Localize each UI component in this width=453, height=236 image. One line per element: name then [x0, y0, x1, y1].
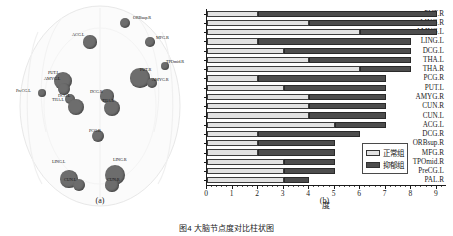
y-tick [204, 125, 207, 126]
x-minor-tick [405, 186, 406, 187]
table-row [207, 75, 386, 81]
bar-segment-depressed [284, 48, 412, 54]
y-tick [204, 153, 207, 154]
y-tick [204, 51, 207, 52]
figure-container: ORBsup.RACG.LMFG.RTPOmid.RPUT.RAMYG.RPUT… [0, 0, 453, 236]
bar-segment-normal [207, 20, 309, 26]
bar-segment-depressed [258, 149, 335, 155]
x-minor-tick [288, 186, 289, 187]
y-tick [204, 97, 207, 98]
x-minor-tick [349, 186, 350, 187]
bar-segment-normal [207, 85, 284, 91]
bar-segment-normal [207, 131, 258, 137]
legend-label-depressed: 抑郁组 [383, 159, 404, 170]
table-row [207, 122, 386, 128]
brain-node-label: CUN.L [64, 177, 76, 182]
y-tick [204, 162, 207, 163]
bar-category-label: PUT.L [425, 84, 444, 92]
x-minor-tick [369, 186, 370, 187]
y-tick [204, 69, 207, 70]
x-minor-tick [272, 186, 273, 187]
table-row [207, 29, 437, 35]
table-row [207, 48, 411, 54]
bar-category-label: PreCG.L [418, 167, 444, 175]
bar-category-label: CUN.R [422, 102, 444, 110]
bar-segment-depressed [258, 131, 360, 137]
bar-segment-depressed [258, 140, 335, 146]
brain-node-label: LING.R [113, 157, 127, 162]
bar-segment-normal [207, 75, 258, 81]
table-row [207, 112, 386, 118]
plot-area: 0123456789 PUT.RLING.RAMYG.LLING.LDCG.LT… [206, 9, 446, 185]
brain-outline-icon [2, 2, 198, 210]
x-minor-tick [441, 186, 442, 187]
y-tick [204, 88, 207, 89]
x-minor-tick [277, 186, 278, 187]
bar-segment-normal [207, 29, 360, 35]
bar-segment-depressed [284, 159, 335, 165]
y-tick [204, 41, 207, 42]
x-minor-tick [395, 186, 396, 187]
bar-segment-normal [207, 122, 335, 128]
bar-category-label: MFG.R [422, 149, 444, 157]
x-minor-tick [267, 186, 268, 187]
bar-category-label: TPOmid.R [413, 158, 444, 166]
bar-segment-depressed [284, 177, 310, 183]
bar-segment-depressed [284, 168, 335, 174]
x-minor-tick [252, 186, 253, 187]
brain-node-label: TPOmid.R [166, 59, 184, 64]
bar-category-label: PCG.R [423, 74, 444, 82]
panel-a-label: (a) [0, 196, 200, 205]
table-row [207, 103, 386, 109]
bar-category-label: PAL.R [424, 176, 444, 184]
x-minor-tick [323, 186, 324, 187]
x-minor-tick [237, 186, 238, 187]
brain-node-label: THA.L [52, 97, 64, 102]
x-minor-tick [426, 186, 427, 187]
brain-node-label: THA.R [102, 98, 114, 103]
y-tick [204, 60, 207, 61]
brain-node-label: CUN.R [107, 177, 120, 182]
y-tick [204, 180, 207, 181]
bar-segment-depressed [284, 85, 386, 91]
table-row [207, 140, 335, 146]
bar-segment-normal [207, 149, 258, 155]
bar-segment-depressed [309, 57, 411, 63]
bar-category-label: DCG.R [422, 130, 444, 138]
bar-segment-normal [207, 103, 309, 109]
x-minor-tick [431, 186, 432, 187]
brain-node-label: ORBsup.R [133, 15, 151, 20]
bar-segment-depressed [360, 66, 411, 72]
brain-node-label: LING.L [52, 159, 65, 164]
x-minor-tick [242, 186, 243, 187]
brain-node-label: PUT.L [48, 70, 59, 75]
table-row [207, 149, 335, 155]
x-minor-tick [221, 186, 222, 187]
x-minor-tick [303, 186, 304, 187]
x-minor-tick [247, 186, 248, 187]
brain-node-label: PUT.R [140, 67, 151, 72]
x-minor-tick [344, 186, 345, 187]
brain-node-label: MFG.R [156, 35, 169, 40]
bar-segment-depressed [309, 112, 386, 118]
bar-segment-normal [207, 38, 258, 44]
y-tick [204, 23, 207, 24]
x-minor-tick [364, 186, 365, 187]
x-minor-tick [420, 186, 421, 187]
y-tick [204, 116, 207, 117]
x-minor-tick [375, 186, 376, 187]
bar-category-label: AMYG.R [415, 93, 444, 101]
table-row [207, 38, 411, 44]
legend-item-depressed: 抑郁组 [366, 159, 404, 170]
brain-node [120, 18, 130, 28]
x-minor-tick [216, 186, 217, 187]
bar-segment-depressed [360, 29, 437, 35]
bar-segment-depressed [309, 94, 386, 100]
y-tick [204, 14, 207, 15]
panel-a-brain-map: ORBsup.RACG.LMFG.RTPOmid.RPUT.RAMYG.RPUT… [0, 0, 200, 215]
bar-segment-normal [207, 168, 284, 174]
bar-segment-depressed [309, 20, 437, 26]
bar-segment-normal [207, 66, 360, 72]
y-tick [204, 106, 207, 107]
x-minor-tick [329, 186, 330, 187]
